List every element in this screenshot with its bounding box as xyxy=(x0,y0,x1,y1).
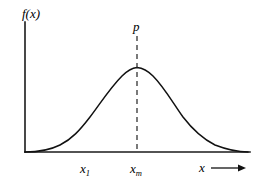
right-arrow-icon xyxy=(238,164,246,171)
peak-label: p xyxy=(132,19,140,34)
tick-label-x1: f(x) x1 xyxy=(79,161,90,178)
figure-canvas: f(x) p f(x) x1 xm x xyxy=(0,0,256,184)
y-axis-label: f(x) xyxy=(22,6,40,21)
tick-label-xm: xm xyxy=(129,161,142,178)
x-axis-label: x xyxy=(198,160,205,175)
density-curve-figure: f(x) p f(x) x1 xm x xyxy=(0,0,256,184)
